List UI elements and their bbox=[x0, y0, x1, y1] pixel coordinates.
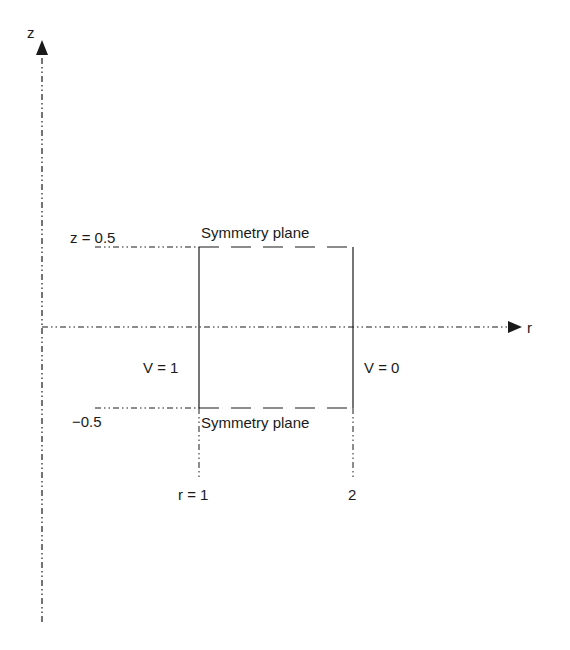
r-outer-tick-label: 2 bbox=[348, 486, 356, 503]
z-axis-label: z bbox=[27, 24, 35, 41]
z-axis-arrow-icon bbox=[36, 40, 48, 55]
top-boundary-label: Symmetry plane bbox=[201, 224, 309, 241]
bottom-boundary-label: Symmetry plane bbox=[201, 414, 309, 431]
diagram-canvas: z r z = 0.5 −0.5 r = 1 2 Symmetry plane … bbox=[0, 0, 570, 650]
r-inner-tick-label: r = 1 bbox=[178, 486, 208, 503]
right-boundary-label: V = 0 bbox=[364, 359, 399, 376]
r-axis-arrow-icon bbox=[508, 321, 522, 333]
r-axis-label: r bbox=[527, 319, 532, 336]
left-boundary-label: V = 1 bbox=[143, 359, 178, 376]
z-bottom-tick-label: −0.5 bbox=[72, 413, 102, 430]
z-top-tick-label: z = 0.5 bbox=[70, 229, 115, 246]
